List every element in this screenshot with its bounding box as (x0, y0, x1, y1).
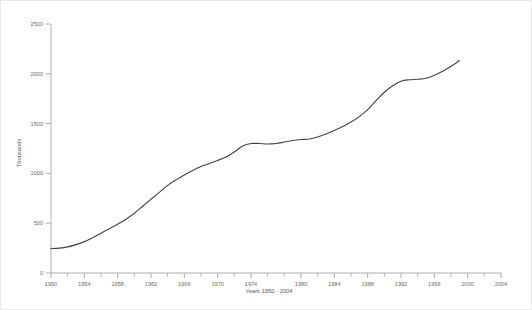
x-tick-label: 1966 (178, 281, 190, 287)
x-tick-label: 1980 (295, 281, 307, 287)
y-tick-label: 1500 (31, 121, 43, 127)
data-series-line (51, 61, 459, 249)
y-axis-ticks: 05001000150020002500 (31, 21, 51, 276)
x-tick-label: 1974 (245, 281, 257, 287)
x-tick-label: 2000 (461, 281, 473, 287)
x-tick-label: 1954 (78, 281, 90, 287)
x-tick-label: 1958 (111, 281, 123, 287)
x-axis-ticks: 1950195419581962196619701974198019841988… (45, 273, 507, 287)
x-tick-label: 1962 (145, 281, 157, 287)
x-tick-label: 1996 (428, 281, 440, 287)
y-tick-label: 2500 (31, 21, 43, 27)
line-chart-plot: 05001000150020002500 1950195419581962196… (1, 1, 532, 310)
x-axis-minor-ticks (68, 273, 485, 277)
x-tick-label: 2004 (495, 281, 507, 287)
y-tick-label: 0 (40, 270, 43, 276)
x-tick-label: 1988 (361, 281, 373, 287)
x-tick-label: 1984 (328, 281, 340, 287)
x-tick-label: 1992 (395, 281, 407, 287)
x-tick-label: 1970 (211, 281, 223, 287)
y-tick-label: 2000 (31, 71, 43, 77)
y-tick-label: 1000 (31, 170, 43, 176)
x-tick-label: 1950 (45, 281, 57, 287)
chart-container: 05001000150020002500 1950195419581962196… (0, 0, 532, 310)
y-axis-title: Thousands (16, 139, 22, 168)
x-axis-title: Years 1950 - 2004 (245, 288, 293, 294)
y-tick-label: 500 (34, 220, 43, 226)
